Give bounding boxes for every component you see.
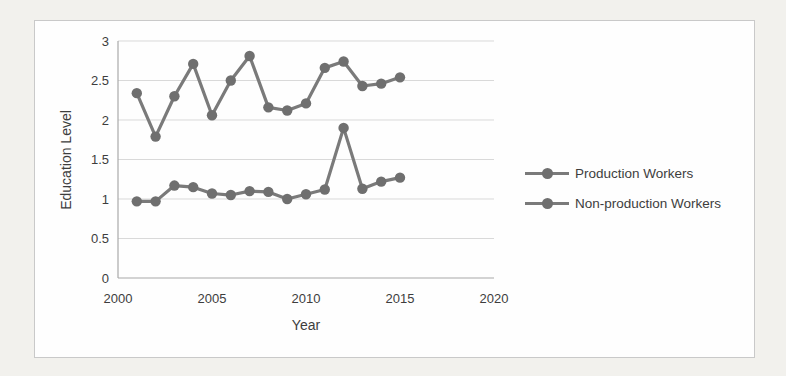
data-point-marker-production-workers xyxy=(282,194,292,204)
data-point-marker-non-production-workers xyxy=(150,131,160,141)
data-point-marker-non-production-workers xyxy=(338,56,348,66)
data-point-marker-production-workers xyxy=(207,188,217,198)
data-point-marker-non-production-workers xyxy=(376,78,386,88)
y-tick-label: 3 xyxy=(102,34,109,49)
data-point-marker-production-workers xyxy=(263,187,273,197)
data-point-marker-production-workers xyxy=(338,123,348,133)
data-point-marker-non-production-workers xyxy=(207,110,217,120)
legend-dot-icon xyxy=(542,168,553,179)
data-point-marker-production-workers xyxy=(169,180,179,190)
plot-area: 00.511.522.5320002005201020152020 xyxy=(91,34,509,307)
x-tick-label: 2015 xyxy=(386,291,415,306)
x-tick-label: 2000 xyxy=(104,291,133,306)
data-point-marker-production-workers xyxy=(132,196,142,206)
data-point-marker-non-production-workers xyxy=(263,102,273,112)
legend-dot-icon xyxy=(542,198,553,209)
legend-label-non-production-workers: Non-production Workers xyxy=(575,196,721,211)
data-point-marker-production-workers xyxy=(226,190,236,200)
legend-label-production-workers: Production Workers xyxy=(575,166,693,181)
y-tick-label: 1 xyxy=(102,192,109,207)
data-point-marker-non-production-workers xyxy=(320,63,330,73)
x-tick-label: 2020 xyxy=(480,291,509,306)
data-point-marker-production-workers xyxy=(357,184,367,194)
legend-line-marker-icon xyxy=(525,172,569,175)
data-point-marker-production-workers xyxy=(376,176,386,186)
y-tick-label: 2.5 xyxy=(91,73,109,88)
x-tick-label: 2010 xyxy=(292,291,321,306)
x-tick-label: 2005 xyxy=(198,291,227,306)
data-point-marker-non-production-workers xyxy=(301,98,311,108)
legend-item-non-production-workers: Non-production Workers xyxy=(525,193,721,214)
data-point-marker-non-production-workers xyxy=(132,88,142,98)
legend-item-production-workers: Production Workers xyxy=(525,163,721,184)
x-axis-title: Year xyxy=(292,317,321,333)
data-point-marker-non-production-workers xyxy=(357,81,367,91)
data-point-marker-production-workers xyxy=(395,172,405,182)
chart-container: 00.511.522.5320002005201020152020 Educat… xyxy=(34,20,755,358)
legend-line-marker-icon xyxy=(525,202,569,205)
y-tick-label: 1.5 xyxy=(91,152,109,167)
y-tick-label: 0.5 xyxy=(91,231,109,246)
data-point-marker-production-workers xyxy=(188,182,198,192)
data-point-marker-production-workers xyxy=(150,196,160,206)
data-point-marker-production-workers xyxy=(244,186,254,196)
data-point-marker-production-workers xyxy=(320,184,330,194)
y-tick-label: 2 xyxy=(102,113,109,128)
data-point-marker-non-production-workers xyxy=(226,75,236,85)
y-axis-title: Education Level xyxy=(58,110,74,210)
y-tick-label: 0 xyxy=(102,271,109,286)
scanned-page-background: 00.511.522.5320002005201020152020 Educat… xyxy=(0,0,786,376)
data-point-marker-non-production-workers xyxy=(282,105,292,115)
data-point-marker-non-production-workers xyxy=(395,72,405,82)
data-point-marker-non-production-workers xyxy=(244,51,254,61)
chart-legend: Production Workers Non-production Worker… xyxy=(525,163,721,214)
data-point-marker-production-workers xyxy=(301,189,311,199)
data-point-marker-non-production-workers xyxy=(169,91,179,101)
data-point-marker-non-production-workers xyxy=(188,59,198,69)
